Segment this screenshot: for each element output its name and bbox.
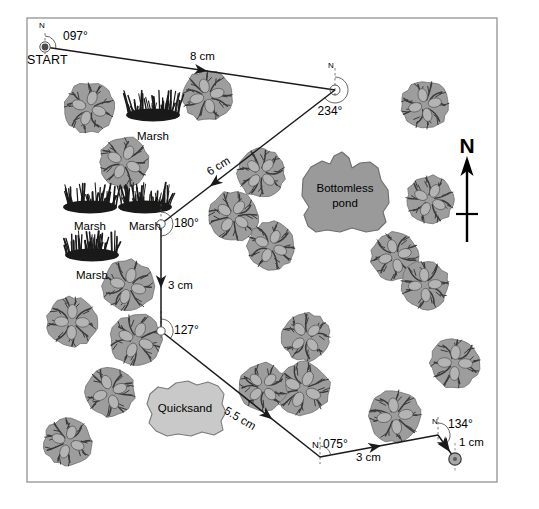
quicksand-label: Quicksand <box>158 403 212 415</box>
north-arrow-label: N <box>459 135 474 156</box>
bearing-label-leg-3: 180° <box>174 217 199 229</box>
bearing-label-leg-4: 127° <box>174 324 199 336</box>
map-canvas <box>0 0 539 509</box>
survey-map-figure: START N 097° 234° 180° 127° N 075° 134° … <box>0 0 539 509</box>
marsh-symbol <box>64 231 121 262</box>
distance-label-leg-6: 1 cm <box>459 437 484 449</box>
start-label: START <box>27 54 68 67</box>
bearing-label-leg-2: 234° <box>318 105 343 117</box>
distance-label-leg-5: 3 cm <box>356 452 381 464</box>
pond-label-line2: pond <box>332 198 358 210</box>
north-tick-label-leg-6: N <box>432 418 438 426</box>
north-tick-label-leg-3: N <box>155 196 161 204</box>
bearing-label-leg-5: 075° <box>323 438 348 450</box>
start-north-label: N <box>39 22 45 30</box>
distance-label-leg-1: 8 cm <box>190 51 215 63</box>
start-marker <box>42 44 49 51</box>
bearing-label-leg-6: 134° <box>448 418 473 430</box>
tree-symbol <box>64 83 114 133</box>
bearing-label-leg-1: 097° <box>63 30 88 42</box>
bearing-prefix-leg-5: N <box>312 440 319 450</box>
north-tick-label-leg-2: N <box>328 62 334 70</box>
marsh-label: Marsh <box>137 131 169 143</box>
marsh-label: Marsh <box>76 270 108 282</box>
distance-label-leg-3: 3 cm <box>168 280 193 292</box>
tree-symbol <box>110 314 162 365</box>
marsh-label: Marsh <box>129 221 161 233</box>
marsh-label: Marsh <box>74 221 106 233</box>
pond-label-line1: Bottomless <box>317 183 374 195</box>
